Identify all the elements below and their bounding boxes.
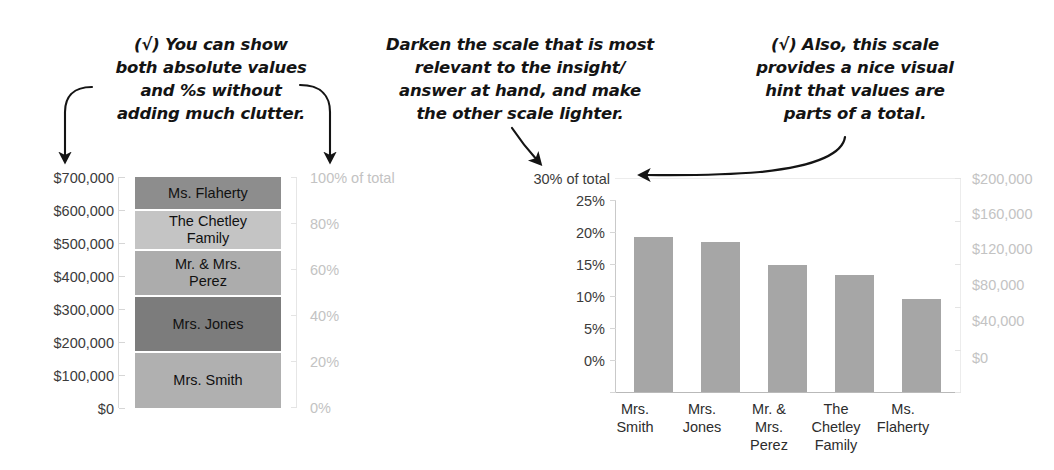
right-axis-tickmark — [955, 350, 961, 351]
left-axis-tickmark — [610, 392, 616, 393]
right-axis-tickmark — [291, 223, 297, 224]
right-axis-tick-60: 60% — [310, 262, 339, 278]
bar-mrs-jones[interactable] — [701, 242, 740, 392]
segment-mrs-smith[interactable]: Mrs. Smith — [135, 353, 281, 408]
left-axis-tick-700000: $700,000 — [22, 170, 114, 186]
left-axis-tickmark — [119, 276, 125, 277]
bar-ms-flaherty[interactable] — [902, 299, 941, 392]
right-axis-tickmark — [291, 269, 297, 270]
right-axis-tickmark — [291, 407, 297, 408]
right-axis-tickmark — [291, 361, 297, 362]
left-axis-tickmark — [119, 375, 125, 376]
left-axis-tick-0: $0 — [22, 401, 114, 417]
right-axis-tickmark — [955, 178, 961, 179]
right-axis-tick-0: 0% — [310, 400, 331, 416]
slide-canvas: (√) You can show both absolute values an… — [0, 0, 1054, 470]
stacked-bar-chart: $700,000 $600,000 $500,000 $400,000 $300… — [0, 160, 460, 430]
left-axis-tickmark — [119, 243, 125, 244]
annotation-middle: Darken the scale that is most relevant t… — [360, 33, 680, 125]
right-axis-line — [960, 178, 961, 393]
right-axis-tick-40000: $40,000 — [972, 313, 1024, 329]
right-axis-tick-20: 20% — [310, 354, 339, 370]
category-label-the-chetley-family: The Chetley Family — [800, 400, 872, 454]
segment-mrs-jones[interactable]: Mrs. Jones — [135, 297, 281, 353]
right-axis-line — [296, 177, 297, 408]
segment-mr-and-mrs-perez[interactable]: Mr. & Mrs. Perez — [135, 251, 281, 297]
category-label-mrs-jones: Mrs. Jones — [666, 400, 738, 436]
left-axis-tickmark — [119, 342, 125, 343]
right-axis-tickmark — [955, 307, 961, 308]
right-axis-tick-100-of-total: 100% of total — [310, 170, 395, 186]
left-axis-tick-25: 25% — [510, 193, 605, 209]
left-axis-tick-100000: $100,000 — [22, 368, 114, 384]
stacked-column[interactable]: Ms. Flaherty The Chetley Family Mr. & Mr… — [135, 177, 281, 408]
left-axis-tick-200000: $200,000 — [22, 335, 114, 351]
left-axis-tickmark — [119, 177, 125, 178]
category-label-mr-and-mrs-perez: Mr. & Mrs. Perez — [733, 400, 805, 454]
left-axis-tick-500000: $500,000 — [22, 236, 114, 252]
left-axis-tickmark — [119, 408, 125, 409]
right-axis-tick-80000: $80,000 — [972, 277, 1024, 293]
bar-mrs-smith[interactable] — [634, 237, 673, 392]
right-axis-tick-200000: $200,000 — [972, 171, 1032, 187]
left-axis-tick-600000: $600,000 — [22, 203, 114, 219]
right-axis-tick-80: 80% — [310, 216, 339, 232]
left-axis-tickmark — [119, 210, 125, 211]
right-axis-tickmark — [955, 392, 961, 393]
left-axis-tick-10: 10% — [510, 289, 605, 305]
left-axis-tickmark — [119, 309, 125, 310]
left-axis-tick-400000: $400,000 — [22, 269, 114, 285]
left-axis-tick-300000: $300,000 — [22, 302, 114, 318]
bar-mr-and-mrs-perez[interactable] — [768, 265, 807, 392]
category-axis-line — [615, 392, 960, 393]
right-axis-tick-120000: $120,000 — [972, 241, 1032, 257]
right-axis-tickmark — [955, 264, 961, 265]
left-axis-tick-0: 0% — [510, 353, 605, 369]
plot-area — [615, 200, 937, 392]
right-axis-tick-0: $0 — [972, 350, 988, 366]
right-axis-tickmark — [291, 177, 297, 178]
right-axis-tickmark — [955, 221, 961, 222]
left-axis-line — [118, 177, 119, 408]
left-axis-tick-5: 5% — [510, 321, 605, 337]
segment-the-chetley-family[interactable]: The Chetley Family — [135, 211, 281, 251]
right-axis-tickmark — [291, 315, 297, 316]
arrow-to-30-percent-label — [512, 128, 537, 160]
percent-bar-chart: 30% of total 25% 20% 15% 10% 5% 0% $200,… — [520, 160, 1054, 470]
left-axis-tick-30-of-total: 30% of total — [510, 171, 610, 187]
annotation-right: (√) Also, this scale provides a nice vis… — [710, 33, 1000, 125]
right-axis-tick-40: 40% — [310, 308, 339, 324]
left-axis-tick-20: 20% — [510, 225, 605, 241]
segment-ms-flaherty[interactable]: Ms. Flaherty — [135, 177, 281, 211]
category-label-mrs-smith: Mrs. Smith — [599, 400, 671, 436]
category-label-ms-flaherty: Ms. Flaherty — [867, 400, 939, 436]
right-axis-tick-160000: $160,000 — [972, 206, 1032, 222]
annotation-left: (√) You can show both absolute values an… — [72, 33, 350, 125]
bar-the-chetley-family[interactable] — [835, 275, 874, 392]
left-axis-tick-15: 15% — [510, 257, 605, 273]
